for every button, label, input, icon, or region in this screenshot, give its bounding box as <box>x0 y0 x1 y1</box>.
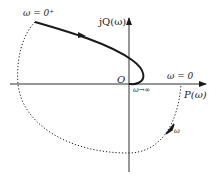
real-axis-label: P(ω) <box>184 90 207 100</box>
nyquist-diagram: ω = 0⁺ jQ(ω) O ω = 0 ω→∞ P(ω) ω <box>0 0 218 180</box>
arc-direction-arrow-icon <box>166 124 174 134</box>
infinite-arc <box>18 22 181 153</box>
start-label: ω = 0⁺ <box>23 9 54 18</box>
origin-label: O <box>117 75 125 85</box>
real-axis-zero-label: ω = 0 <box>167 72 193 81</box>
response-curve <box>35 22 143 84</box>
arc-direction-label: ω <box>174 128 180 135</box>
infinity-label: ω→∞ <box>133 87 150 94</box>
imaginary-axis-label: jQ(ω) <box>99 17 126 27</box>
